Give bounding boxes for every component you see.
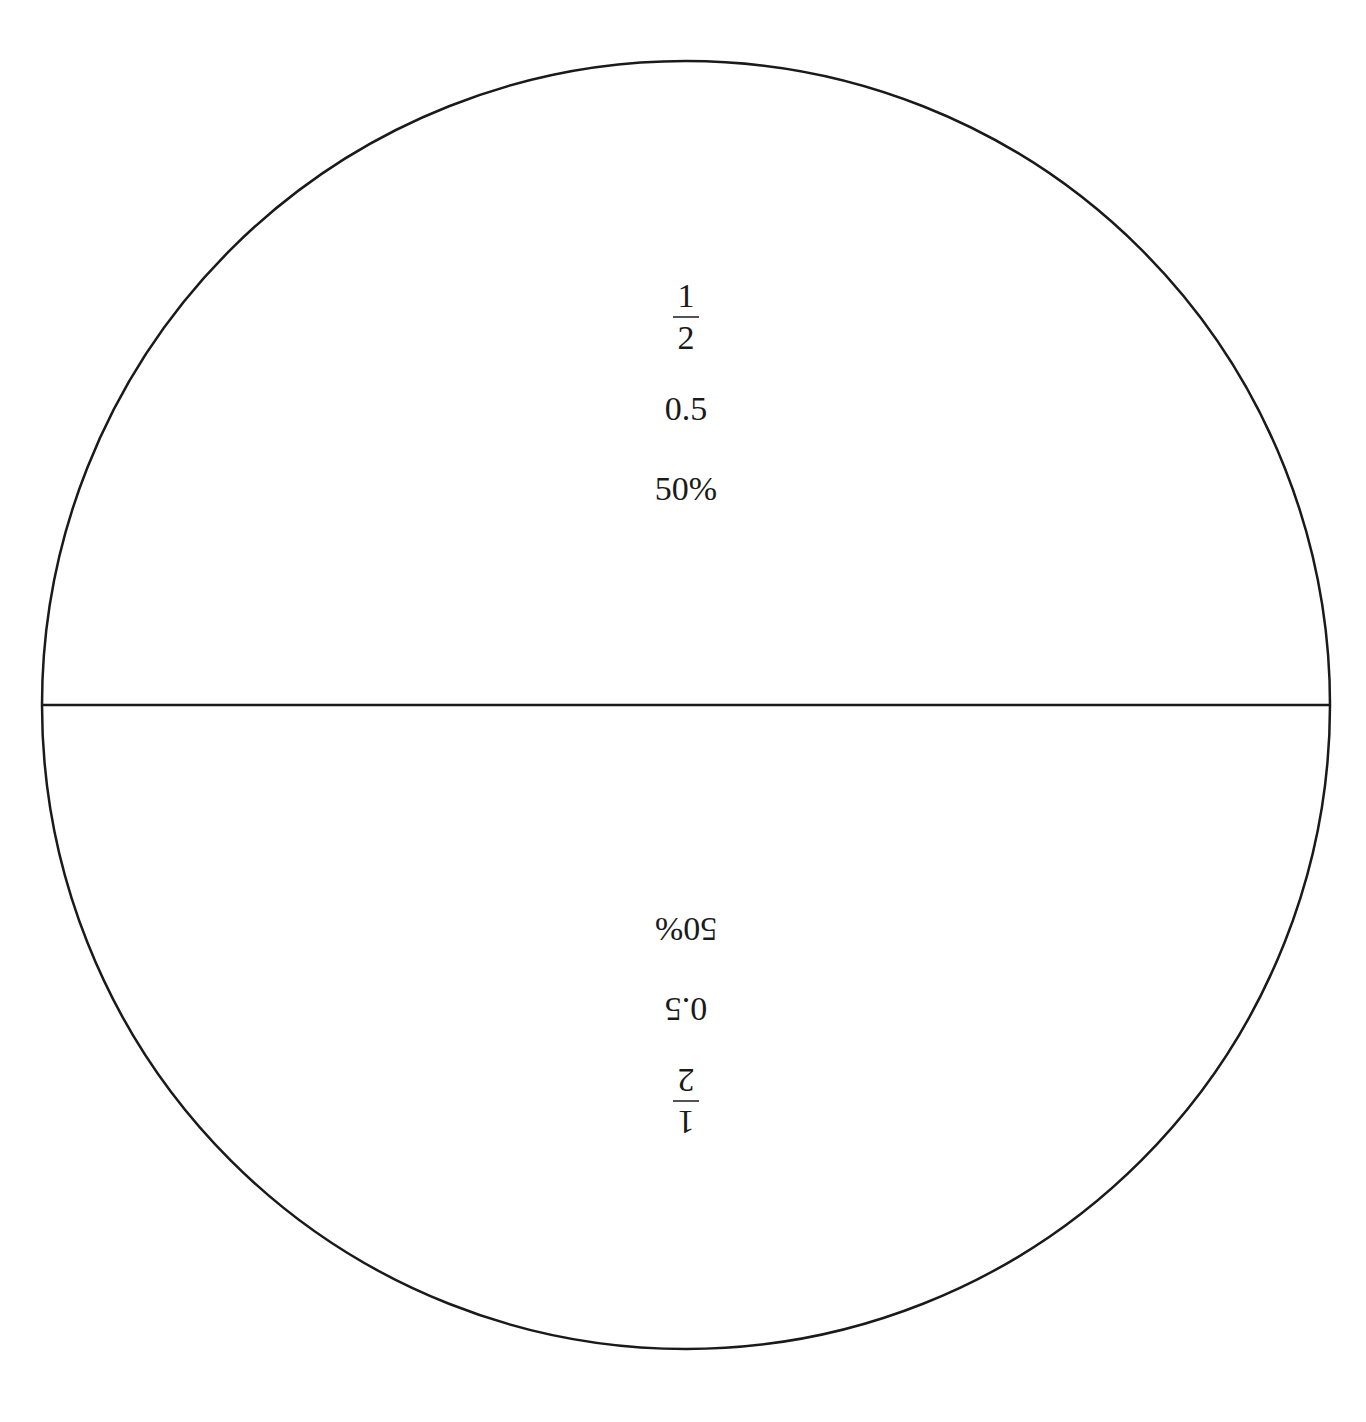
- bottom-fraction-numerator: 1: [678, 1104, 695, 1141]
- top-decimal: 0.5: [665, 390, 708, 427]
- bottom-fraction-denominator: 2: [678, 1062, 695, 1099]
- top-fraction-numerator: 1: [678, 277, 695, 314]
- bottom-percent: 50%: [655, 911, 717, 948]
- fraction-circle-diagram: 1 2 0.5 50% 1 2 0.5 50%: [0, 0, 1366, 1422]
- top-fraction-denominator: 2: [678, 319, 695, 356]
- top-percent: 50%: [655, 470, 717, 507]
- bottom-decimal: 0.5: [665, 991, 708, 1028]
